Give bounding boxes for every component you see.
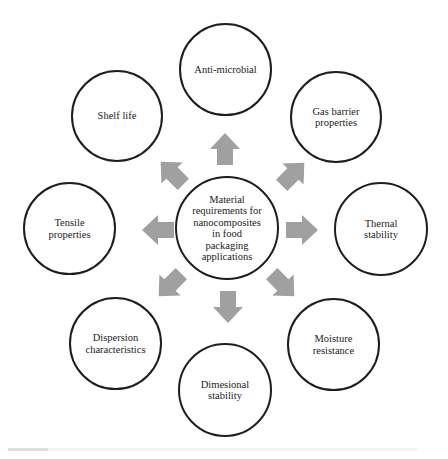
center-node: Material requirements for nanocomposites…: [175, 176, 279, 280]
node-thermal-stability: Thernal stability: [334, 182, 428, 276]
arrow-down-icon: [213, 291, 243, 323]
node-gas-barrier: Gas barrier properties: [290, 71, 382, 163]
arrow-right-icon: [286, 215, 318, 245]
node-label: Anti-microbial: [194, 64, 256, 76]
center-node-label: Material requirements for nanocomposites…: [192, 194, 262, 263]
node-tensile-properties: Tensile properties: [23, 182, 116, 275]
arrow-down-right-icon: [261, 263, 305, 307]
arrow-up-right-icon: [271, 152, 315, 196]
node-label: Shelf life: [98, 110, 137, 122]
diagram-canvas: Material requirements for nanocomposites…: [0, 0, 448, 459]
figure-caption-cropped: [8, 448, 418, 451]
node-label: Dimesional stability: [201, 379, 249, 402]
node-label: Gas barrier properties: [313, 106, 360, 129]
arrow-up-icon: [210, 133, 240, 165]
node-dimensional-stability: Dimesional stability: [178, 343, 272, 437]
node-anti-microbial: Anti-microbial: [179, 23, 272, 116]
arrow-left-icon: [142, 215, 174, 245]
arrow-up-left-icon: [150, 151, 194, 195]
arrow-down-left-icon: [148, 263, 192, 307]
node-label: Tensile properties: [49, 217, 91, 240]
node-dispersion-characteristics: Dispersion characteristics: [69, 297, 162, 390]
node-label: Moisture resistance: [313, 333, 354, 356]
node-moisture-resistance: Moisture resistance: [287, 298, 380, 391]
node-shelf-life: Shelf life: [71, 70, 163, 162]
node-label: Dispersion characteristics: [85, 332, 145, 355]
node-label: Thernal stability: [364, 218, 398, 241]
